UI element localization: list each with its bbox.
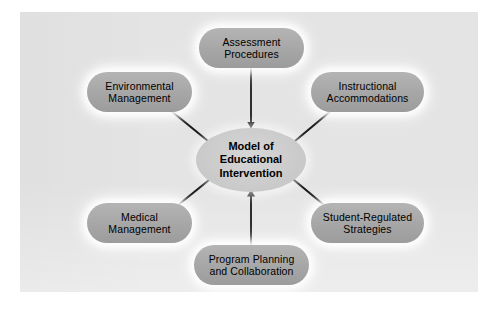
- node-assessment-procedures[interactable]: Assessment Procedures: [199, 28, 304, 68]
- node-center-model-of-educational-intervention[interactable]: Model of Educational Intervention: [196, 128, 306, 192]
- node-label: Student-Regulated Strategies: [317, 211, 418, 236]
- node-medical-management[interactable]: Medical Management: [87, 203, 192, 243]
- node-label: Medical Management: [102, 211, 176, 236]
- node-label: Assessment Procedures: [216, 36, 286, 61]
- connector-environmental-to-center: [170, 110, 208, 141]
- node-label: Program Planning and Collaboration: [203, 253, 301, 278]
- node-instructional-accommodations[interactable]: Instructional Accommodations: [311, 72, 424, 112]
- node-program-planning-and-collaboration[interactable]: Program Planning and Collaboration: [194, 245, 309, 285]
- node-label: Environmental Management: [99, 80, 179, 105]
- center-label: Model of Educational Intervention: [214, 140, 289, 181]
- connector-instructional-to-center: [295, 110, 332, 141]
- diagram-root: Assessment Procedures Environmental Mana…: [0, 0, 498, 309]
- node-label: Instructional Accommodations: [321, 80, 415, 105]
- node-environmental-management[interactable]: Environmental Management: [87, 72, 192, 112]
- node-student-regulated-strategies[interactable]: Student-Regulated Strategies: [311, 203, 424, 243]
